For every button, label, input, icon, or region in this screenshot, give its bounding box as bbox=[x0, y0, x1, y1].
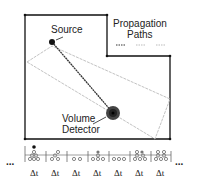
svg-text:Δt: Δt bbox=[114, 168, 123, 178]
svg-text:Δt: Δt bbox=[72, 168, 81, 178]
bin-labels: Δt Δt Δt Δt Δt Δt Δt bbox=[30, 168, 165, 178]
direct-path bbox=[52, 42, 113, 113]
svg-text:Δt: Δt bbox=[93, 168, 102, 178]
svg-text:Δt: Δt bbox=[156, 168, 165, 178]
ellipsis-right: ... bbox=[175, 156, 184, 167]
source-label: Source bbox=[51, 24, 83, 35]
svg-text:Δt: Δt bbox=[135, 168, 144, 178]
detector-label-2: Detector bbox=[62, 124, 100, 135]
legend-title-1: Propagation bbox=[113, 18, 167, 29]
legend-title-2: Paths bbox=[127, 29, 153, 40]
svg-text:Δt: Δt bbox=[30, 168, 39, 178]
timeline-bins bbox=[25, 146, 171, 162]
ellipsis-left: ... bbox=[6, 156, 15, 167]
detector-label-1: Volume bbox=[62, 113, 96, 124]
svg-text:Δt: Δt bbox=[51, 168, 60, 178]
propagation-diagram: Source Volume Detector Propagation Paths… bbox=[0, 0, 198, 185]
source-point bbox=[49, 39, 55, 45]
